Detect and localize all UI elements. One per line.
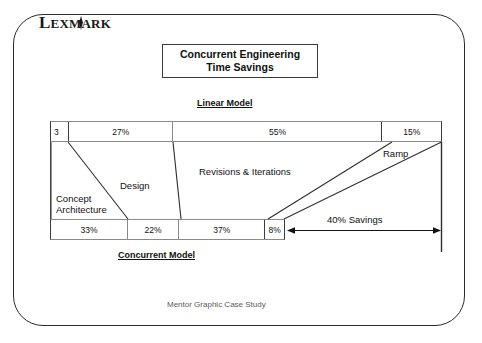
label-revisions-iterations: Revisions & Iterations	[199, 166, 291, 177]
linear-model-caption: Linear Model	[197, 98, 253, 108]
linear-bar-segment-label: 55%	[269, 127, 286, 137]
linear-bar-segment-label: 3	[54, 127, 59, 137]
label-concept-line1: Concept	[56, 193, 107, 204]
logo-part-exm: EXM	[51, 16, 82, 31]
linear-bar-segment: 55%	[173, 122, 382, 141]
slide-canvas: LEXMARK Concurrent Engineering Time Savi…	[0, 0, 482, 343]
title-line-2: Time Savings	[206, 61, 274, 74]
linear-bar-segment: 27%	[69, 122, 174, 141]
linear-bar-segment: 15%	[382, 122, 441, 141]
linear-bar-segment: 3	[51, 122, 69, 141]
label-design: Design	[120, 180, 150, 191]
linear-bar-segment-label: 27%	[112, 127, 129, 137]
logo-part-rk: RK	[91, 16, 111, 31]
title-line-1: Concurrent Engineering	[180, 48, 300, 61]
concurrent-model-caption: Concurrent Model	[118, 250, 195, 260]
concurrent-bar-segment-label: 33%	[80, 225, 97, 235]
concurrent-bar-segment-label: 22%	[144, 225, 161, 235]
lexmark-logo: LEXMARK	[39, 14, 111, 32]
concurrent-model-bar: 33%22%37%8%	[50, 219, 285, 240]
logo-nib-upper-icon	[79, 16, 83, 23]
concurrent-bar-segment: 33%	[51, 220, 128, 239]
footer-source: Mentor Graphic Case Study	[167, 300, 266, 309]
label-ramp: Ramp	[383, 148, 408, 159]
linear-model-bar: 327%55%15%	[50, 121, 442, 142]
concurrent-bar-segment: 8%	[265, 220, 284, 239]
concurrent-bar-segment: 37%	[179, 220, 265, 239]
logo-part-l: L	[39, 13, 51, 32]
logo-nib-icon	[79, 22, 83, 30]
concurrent-bar-segment-label: 37%	[213, 225, 230, 235]
linear-bar-segment-label: 15%	[403, 127, 420, 137]
label-concept-line2: Architecture	[56, 204, 107, 215]
label-savings-annotation: 40% Savings	[327, 214, 382, 225]
concurrent-bar-segment: 22%	[128, 220, 179, 239]
title-box: Concurrent Engineering Time Savings	[162, 44, 318, 78]
concurrent-bar-segment-label: 8%	[268, 225, 280, 235]
label-concept-architecture: Concept Architecture	[56, 193, 107, 215]
